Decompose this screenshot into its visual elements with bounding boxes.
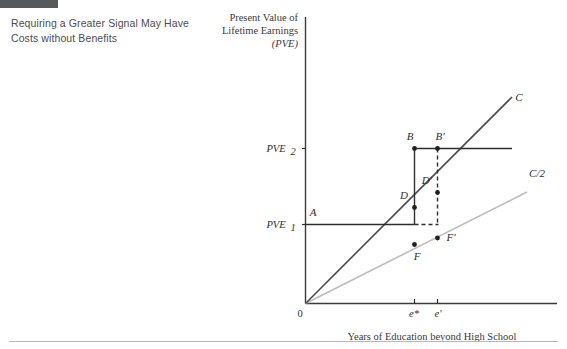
y-tick-text-pve2: PVE [265, 143, 286, 154]
y-tick-sub-pve2: 2 [290, 146, 296, 157]
point-label-d: D [399, 189, 408, 201]
origin-label: 0 [297, 308, 302, 319]
axes [306, 17, 558, 304]
y-tick-label-pve1: PVE 1 [265, 219, 295, 233]
data-point-markers [412, 146, 440, 247]
chart-figure: Present Value of Lifetime Earnings (PVE)… [0, 0, 567, 349]
point-marker-b [412, 146, 417, 151]
y-tick-label-pve2: PVE 2 [265, 143, 296, 157]
bottom-divider [9, 341, 558, 342]
point-marker-d-prime [435, 190, 440, 195]
line-c [306, 97, 513, 304]
series-label-c-over-2: C/2 [529, 167, 545, 179]
y-axis-title-line-3: (PVE) [272, 38, 299, 50]
y-tick-sub-pve1: 1 [290, 222, 295, 233]
series-lines [306, 97, 528, 304]
series-label-c: C [515, 91, 523, 103]
y-axis-title-line-1: Present Value of [229, 12, 298, 23]
point-label-b-prime: B′ [435, 130, 445, 142]
x-tick-label-e-star: e* [409, 308, 420, 319]
point-marker-b-prime [435, 146, 440, 151]
point-label-f: F [413, 250, 421, 262]
y-axis-title: Present Value of Lifetime Earnings (PVE) [222, 12, 299, 50]
x-tick-label-e-prime: e′ [435, 308, 443, 319]
figure-page: Requiring a Greater Signal May Have Cost… [0, 0, 567, 349]
point-marker-d [412, 205, 417, 210]
y-axis-title-line-2: Lifetime Earnings [222, 25, 298, 36]
point-marker-f-prime [435, 236, 440, 241]
point-label-d-prime: D′ [421, 174, 433, 186]
point-marker-f [412, 242, 417, 247]
point-label-f-prime: F′ [445, 231, 456, 243]
point-label-b: B [407, 130, 414, 142]
y-tick-text-pve1: PVE [265, 219, 286, 230]
point-label-a: A [309, 206, 317, 218]
